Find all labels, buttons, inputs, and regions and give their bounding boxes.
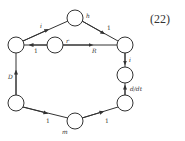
edge-label-bottom-right: 1 [105,117,109,124]
edge-label-mid-right: R [91,47,97,54]
edge-label-left: D [7,73,13,80]
node-right-bot [117,95,133,111]
edge-label-bottom-left: 1 [46,117,50,124]
node-right-top [117,37,133,53]
node-right-mid [117,67,133,83]
node-left-bot [8,95,24,111]
edge-label-right-lower: d/dt [130,85,143,92]
edge-label-top-left: i [40,22,42,29]
node-mid [47,37,63,53]
edge-label-right-upper: i [129,56,131,63]
node-label-r: r [66,37,70,44]
signal-flow-graph: h r m i 1 1 R i d/dt D 1 1 [0,0,185,141]
edge-label-top-right: 1 [107,24,111,31]
node-top [67,10,83,26]
node-label-m: m [62,128,68,135]
edge-label-mid-left: 1 [34,47,38,54]
node-label-h: h [86,12,90,19]
node-left-top [8,37,24,53]
node-bottom [67,113,83,129]
